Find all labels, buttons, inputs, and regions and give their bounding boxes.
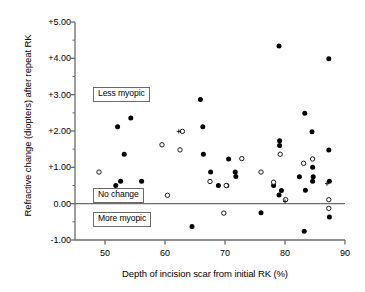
data-point-filled (198, 97, 203, 102)
data-point-filled (326, 56, 331, 61)
data-point-filled (118, 179, 123, 184)
annotation-less-myopic: Less myopic (93, 87, 150, 102)
annotation-no-change: No change (93, 188, 144, 203)
data-point-filled (302, 229, 307, 234)
data-point-open (224, 183, 228, 187)
data-point-filled (310, 129, 315, 134)
data-point-open (97, 170, 101, 174)
data-point-open (259, 170, 263, 174)
data-point-filled (277, 192, 282, 197)
data-point-filled (277, 43, 282, 48)
data-point-filled (128, 115, 133, 120)
data-point-filled (233, 174, 238, 179)
data-point-filled (311, 174, 316, 179)
data-point-filled (115, 124, 120, 129)
data-point-filled (297, 174, 302, 179)
data-point-open (208, 179, 212, 183)
data-point-open (301, 161, 305, 165)
data-point-open (278, 152, 282, 156)
data-point-filled (277, 143, 282, 148)
data-point-open (222, 211, 226, 215)
data-point-filled (327, 179, 332, 184)
data-point-filled (310, 179, 315, 184)
data-point-filled (190, 224, 195, 229)
data-point-filled (326, 147, 331, 152)
data-point-open (178, 148, 182, 152)
data-point-open (240, 156, 244, 160)
data-point-filled (259, 210, 264, 215)
data-point-filled (279, 188, 284, 193)
data-point-filled (216, 183, 221, 188)
data-point-filled (139, 179, 144, 184)
scatter-chart-figure: Refractive change (diopters) after repea… (0, 0, 365, 292)
data-point-filled (122, 152, 127, 157)
data-point-filled (310, 165, 315, 170)
data-point-open (271, 180, 275, 184)
data-point-filled (302, 111, 307, 116)
data-point-filled (200, 124, 205, 129)
data-point-open (310, 157, 314, 161)
data-point-open (327, 197, 331, 201)
data-point-filled (303, 188, 308, 193)
x-axis-title: Depth of incision scar from initial RK (… (55, 268, 355, 279)
annotation-more-myopic: More myopic (93, 212, 151, 227)
data-point-filled (208, 170, 213, 175)
data-point-filled (201, 152, 206, 157)
data-point-open (327, 206, 331, 210)
data-point-open (160, 143, 164, 147)
data-point-open (165, 193, 169, 197)
data-point-filled (226, 156, 231, 161)
data-point-filled (327, 215, 332, 220)
plot-area (0, 0, 365, 292)
data-point-filled (233, 170, 238, 175)
data-point-filled (277, 138, 282, 143)
